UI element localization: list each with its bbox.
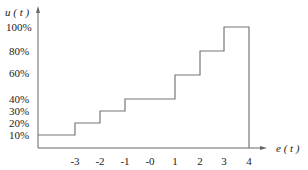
x-tick-neg0: -0	[145, 155, 155, 167]
y-tick-40: 40%	[9, 93, 29, 105]
y-axis-arrow-icon	[36, 6, 40, 13]
x-tick-neg3: -3	[70, 155, 80, 167]
x-tick-3: 3	[221, 155, 227, 167]
x-tick-neg2: -2	[95, 155, 104, 167]
x-tick-2: 2	[197, 155, 203, 167]
y-axis-label: u ( t )	[5, 6, 29, 19]
x-tick-4: 4	[246, 155, 252, 167]
y-tick-10: 10%	[9, 129, 29, 141]
x-tick-1: 1	[172, 155, 178, 167]
step-chart: u ( t ) e ( t ) 100% 80% 60% 40% 30% 20%…	[0, 0, 308, 170]
y-tick-60: 60%	[9, 67, 29, 79]
x-tick-neg1: -1	[120, 155, 129, 167]
x-axis-label: e ( t )	[276, 142, 300, 155]
y-tick-100: 100%	[6, 21, 32, 33]
y-tick-80: 80%	[9, 45, 29, 57]
y-tick-20: 20%	[9, 117, 29, 129]
step-series	[38, 27, 249, 148]
y-axis	[36, 6, 40, 148]
x-tick-labels: -3 -2 -1 -0 1 2 3 4	[70, 155, 252, 167]
x-axis-arrow-icon	[260, 146, 267, 150]
y-tick-labels: 100% 80% 60% 40% 30% 20% 10%	[6, 21, 32, 141]
y-tick-30: 30%	[9, 105, 29, 117]
x-axis	[38, 146, 267, 150]
